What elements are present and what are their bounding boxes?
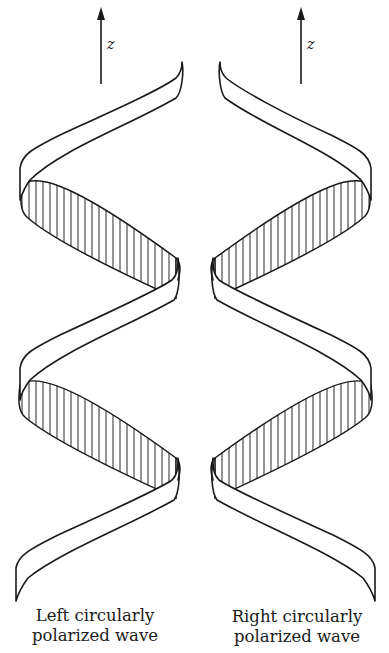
left-z-axis-label: z <box>106 36 115 52</box>
right-z-axis-arrow: z <box>297 7 315 84</box>
left-helix-ribbon <box>16 62 183 601</box>
right-helix-ribbon <box>211 62 375 601</box>
right-caption-line-1: Right circularly <box>207 607 387 627</box>
left-back-band-1 <box>21 181 176 298</box>
right-front-band-1 <box>219 62 371 200</box>
right-z-axis-label: z <box>306 36 315 52</box>
right-back-band-1 <box>215 181 370 298</box>
right-back-band-2 <box>215 381 372 498</box>
left-caption: Left circularly polarized wave <box>5 606 185 646</box>
left-caption-line-1: Left circularly <box>5 606 185 626</box>
right-caption-line-2: polarized wave <box>207 627 387 647</box>
left-caption-line-2: polarized wave <box>5 626 185 646</box>
left-z-axis-arrow: z <box>97 7 115 84</box>
circular-polarization-diagram: z z <box>0 0 389 653</box>
right-caption: Right circularly polarized wave <box>207 607 387 647</box>
left-back-band-2 <box>19 381 176 498</box>
